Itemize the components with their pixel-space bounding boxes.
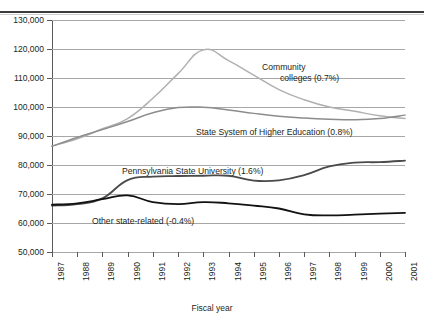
series-label-state-system: State System of Higher Education (0.8%) bbox=[196, 127, 353, 138]
y-axis-tick bbox=[47, 165, 52, 166]
chart-figure: 130,000120,000110,000100,00090,00080,000… bbox=[0, 0, 424, 319]
x-axis-tick bbox=[380, 252, 381, 257]
x-axis-tick bbox=[178, 252, 179, 257]
x-axis-tick-label: 1999 bbox=[359, 262, 369, 281]
x-axis-tick bbox=[102, 252, 103, 257]
x-axis-tick-label: 1994 bbox=[233, 262, 243, 281]
x-axis-tick-label: 1991 bbox=[157, 262, 167, 281]
series-label-community-colleges-line1: Community bbox=[262, 62, 305, 72]
x-axis-tick-label: 1992 bbox=[182, 262, 192, 281]
series-line bbox=[52, 195, 405, 215]
series-label-community-colleges-line2: colleges (0.7%) bbox=[262, 73, 339, 84]
y-axis-tick bbox=[47, 20, 52, 21]
y-axis-tick bbox=[47, 49, 52, 50]
x-axis-tick-label: 1997 bbox=[308, 262, 318, 281]
x-axis-tick bbox=[405, 252, 406, 257]
x-axis-tick bbox=[355, 252, 356, 257]
x-axis-tick bbox=[203, 252, 204, 257]
y-axis-tick bbox=[47, 223, 52, 224]
x-axis-tick bbox=[52, 252, 53, 257]
x-axis-tick bbox=[153, 252, 154, 257]
x-axis-tick-label: 1989 bbox=[106, 262, 116, 281]
x-axis-title: Fiscal year bbox=[0, 303, 424, 313]
x-axis-tick bbox=[279, 252, 280, 257]
x-axis-tick-label: 1995 bbox=[258, 262, 268, 281]
x-axis-tick-label: 1990 bbox=[132, 262, 142, 281]
x-axis-tick-label: 1998 bbox=[333, 262, 343, 281]
x-axis-tick bbox=[77, 252, 78, 257]
x-axis-tick bbox=[254, 252, 255, 257]
x-axis-tick bbox=[304, 252, 305, 257]
x-axis-tick-label: 1996 bbox=[283, 262, 293, 281]
x-axis-tick bbox=[229, 252, 230, 257]
x-axis-tick bbox=[329, 252, 330, 257]
y-axis-tick bbox=[47, 78, 52, 79]
x-axis-tick-label: 1988 bbox=[81, 262, 91, 281]
x-axis-tick-label: 1987 bbox=[56, 262, 66, 281]
x-axis-tick-label: 1993 bbox=[207, 262, 217, 281]
x-axis-tick-label: 2001 bbox=[409, 262, 419, 281]
series-label-penn-state: Pennsylvania State University (1.6%) bbox=[122, 166, 263, 177]
series-label-community-colleges: Community colleges (0.7%) bbox=[262, 62, 339, 83]
y-axis-tick bbox=[47, 136, 52, 137]
x-axis-tick bbox=[128, 252, 129, 257]
y-axis-tick bbox=[47, 194, 52, 195]
y-axis-tick bbox=[47, 107, 52, 108]
x-axis-tick-label: 2000 bbox=[384, 262, 394, 281]
series-label-other-state-related: Other state-related (-0.4%) bbox=[92, 216, 194, 227]
